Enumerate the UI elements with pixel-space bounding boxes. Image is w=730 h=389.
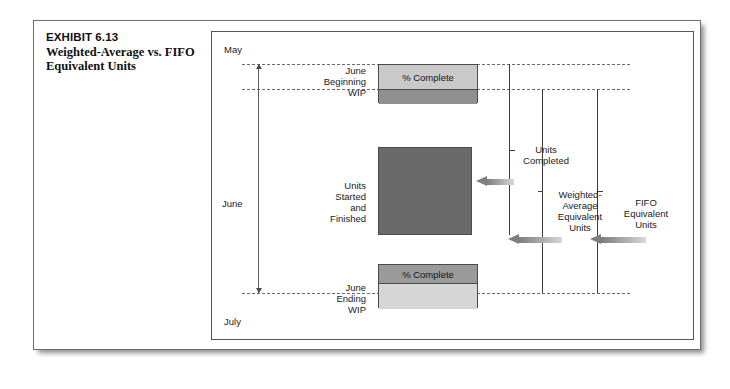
arrow-shaft [519, 237, 562, 243]
exhibit-header: EXHIBIT 6.13 Weighted-Average vs. FIFO E… [46, 31, 221, 73]
arrow-head-up-icon [256, 64, 262, 69]
ending-wip-remaining-segment [379, 284, 477, 309]
beginning-wip-box: % Complete [378, 64, 478, 103]
beginning-wip-remaining-segment [379, 90, 477, 104]
arrow-shaft [601, 237, 646, 243]
arrow-left-weighted-average-icon [508, 234, 562, 245]
bracket-nub-icon [538, 191, 543, 192]
measure-label-fifo-equivalent-units: FIFO Equivalent Units [617, 197, 675, 230]
arrow-left-fifo-icon [590, 234, 646, 245]
arrow-head-left-icon [590, 234, 601, 244]
arrow-head-left-icon [476, 176, 487, 186]
exhibit-number: EXHIBIT 6.13 [46, 31, 221, 43]
beginning-wip-percent-complete-segment: % Complete [379, 65, 477, 90]
stage-label-ending-wip: June Ending WIP [294, 282, 366, 315]
stage-label-units-started: Units Started and Finished [294, 180, 366, 224]
arrow-head-down-icon [256, 288, 262, 293]
measure-label-weighted-average-equivalent-units: Weighted- Average Equivalent Units [546, 189, 614, 233]
arrow-shaft [487, 179, 514, 185]
units-completed-bracket [509, 64, 510, 235]
arrow-head-left-icon [508, 234, 519, 244]
weighted-average-bracket-left [542, 89, 543, 293]
ending-wip-percent-complete-segment: % Complete [379, 265, 477, 284]
ending-wip-box: % Complete [378, 264, 478, 308]
beginning-wip-percent-complete-label: % Complete [402, 72, 454, 83]
diagram-panel: May July June June Beginning WIP Units S… [211, 31, 694, 340]
units-started-and-finished-box [378, 147, 472, 235]
month-label-july: July [224, 316, 241, 327]
stage-label-beginning-wip: June Beginning WIP [294, 65, 366, 98]
month-span-label-june: June [222, 198, 243, 209]
measure-label-units-completed: Units Completed [515, 144, 577, 166]
exhibit-frame: EXHIBIT 6.13 Weighted-Average vs. FIFO E… [33, 20, 701, 350]
june-span-arrow [258, 64, 259, 293]
ending-wip-percent-complete-label: % Complete [402, 269, 454, 280]
month-label-may: May [224, 44, 242, 55]
arrow-left-units-completed-icon [476, 176, 514, 187]
exhibit-title: Weighted-Average vs. FIFO Equivalent Uni… [46, 45, 221, 73]
